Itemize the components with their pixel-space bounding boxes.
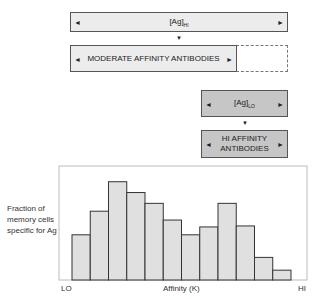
histogram-bar-9 bbox=[218, 203, 236, 280]
histogram-bar-12 bbox=[273, 270, 291, 280]
histogram-bar-11 bbox=[255, 257, 273, 280]
histogram-bar-10 bbox=[236, 226, 254, 280]
x-tick-lo: LO bbox=[61, 284, 72, 293]
histogram-bar-8 bbox=[200, 227, 218, 280]
histogram-bar-3 bbox=[109, 182, 127, 280]
histogram-bar-7 bbox=[182, 235, 200, 280]
x-axis-label: Affinity (K) bbox=[163, 284, 200, 293]
histogram-bar-6 bbox=[163, 220, 181, 280]
histogram-bar-1 bbox=[72, 235, 90, 280]
histogram bbox=[0, 0, 319, 299]
histogram-bar-2 bbox=[90, 211, 108, 280]
diagram: ◄ [Ag]HI ► ▼ ◄ MODERATE AFFINITY ANTIBOD… bbox=[0, 0, 319, 299]
histogram-bar-4 bbox=[127, 193, 145, 280]
x-tick-hi: HI bbox=[298, 284, 306, 293]
histogram-bar-5 bbox=[145, 203, 163, 280]
